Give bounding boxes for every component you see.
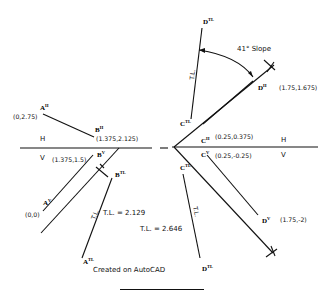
tl-tag-left: T.L. (89, 208, 100, 221)
point-b-tl: BTL (115, 170, 126, 179)
point-d-h: DH (258, 83, 267, 92)
left-fold-label-h: H (40, 135, 45, 143)
aux-tick-mark (96, 167, 108, 177)
slope-angle-arc (199, 50, 253, 77)
point-a-tl: ATL (83, 257, 94, 266)
slope-annotation: 41° Slope (237, 45, 271, 53)
point-a-v: AV (43, 198, 52, 207)
coord-d-h: (1.75,1.675) (279, 84, 317, 91)
coord-d-v: (1.75,-2) (280, 216, 307, 223)
point-a-h: AH (40, 103, 49, 112)
coord-b-h: (1.375,2.125) (96, 135, 138, 142)
coord-a-v: (0,0) (25, 211, 40, 218)
autocad-credit: Created on AutoCAD (93, 266, 165, 274)
right-fold-label-v: V (281, 151, 286, 159)
right-fold-label-h: H (281, 136, 286, 144)
left-fold-label-v: V (40, 154, 45, 162)
point-c-tl-top: CTL (180, 119, 191, 128)
true-length-left: T.L. = 2.129 (102, 209, 145, 217)
coord-c-h: (0.25,0.375) (215, 133, 253, 140)
point-d-tl-bottom: DTL (202, 264, 213, 273)
coord-c-v: (0.25,-0.25) (215, 152, 252, 159)
tl-tag-right-bottom: T.L. (192, 205, 201, 218)
point-d-tl-top: DTL (203, 17, 214, 26)
line-ab-true-length (82, 178, 112, 258)
point-d-v: DV (262, 216, 271, 225)
line-ab-horizontal-view (43, 114, 94, 137)
true-length-right: T.L. = 2.646 (139, 225, 183, 233)
point-c-tl-bottom: CTL (180, 163, 191, 172)
point-b-h: BH (95, 125, 104, 134)
coord-a-h: (0,2.75) (13, 113, 38, 120)
point-c-h: CH (201, 136, 210, 145)
point-b-v: BV (97, 150, 106, 159)
coord-b-v: (1.375,1.5) (52, 156, 86, 163)
orthographic-projection-diagram: H V AH (0,2.75) BH (1.375,2.125) BV (1.3… (0, 0, 328, 290)
line-cd-horizontal-view (203, 81, 253, 124)
tl-tag-right-top: T.L. (188, 69, 196, 81)
line-cd-vertical-view (207, 155, 258, 215)
